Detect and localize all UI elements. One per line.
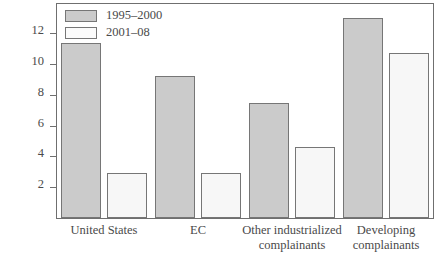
x-axis-category-label-line: complainants	[325, 238, 440, 253]
bar	[249, 103, 289, 218]
x-axis-category-labels: United StatesECOther industrializedcompl…	[57, 223, 433, 261]
y-axis-tick-label: 12	[32, 24, 45, 36]
legend-label: 2001–08	[106, 26, 150, 39]
y-axis: 24681012	[0, 3, 56, 219]
y-axis-tick-mark	[50, 156, 56, 157]
y-axis-tick-mark	[50, 95, 56, 96]
bar-group	[339, 4, 433, 218]
y-axis-tick-label: 2	[38, 178, 44, 190]
legend-item: 2001–08	[65, 25, 225, 40]
bar	[201, 173, 241, 218]
legend-item: 1995–2000	[65, 8, 225, 23]
x-axis-category-label-line: Developing	[325, 223, 440, 238]
bar	[61, 43, 101, 218]
bar	[155, 76, 195, 218]
y-axis-tick-mark	[50, 187, 56, 188]
bar	[343, 18, 383, 218]
bar-group	[245, 4, 339, 218]
y-axis-tick-label: 6	[38, 117, 44, 129]
legend-swatch-empty-white	[65, 27, 97, 39]
bar-chart: 24681012 1995–20002001–08 United StatesE…	[0, 0, 440, 261]
bar	[389, 53, 429, 218]
x-axis-category-label: Developingcomplainants	[325, 223, 440, 253]
legend-label: 1995–2000	[106, 9, 162, 22]
y-axis-tick-mark	[50, 33, 56, 34]
legend-swatch-filled-gray	[65, 10, 97, 22]
bar	[107, 173, 147, 218]
y-axis-tick-mark	[50, 126, 56, 127]
y-axis-tick-label: 4	[38, 147, 44, 159]
y-axis-tick-label: 10	[32, 55, 45, 67]
y-axis-tick-mark	[50, 64, 56, 65]
bar	[295, 147, 335, 218]
legend: 1995–20002001–08	[65, 8, 225, 42]
y-axis-tick-label: 8	[38, 86, 44, 98]
